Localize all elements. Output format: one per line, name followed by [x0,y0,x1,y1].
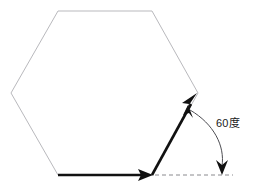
diagonal-vector-shaft [152,104,191,175]
hexagon-outline [11,11,198,175]
diagram-canvas [0,0,256,191]
hexagon-vector-diagram: 60度 [0,0,256,191]
angle-value-label: 60度 [216,117,240,129]
